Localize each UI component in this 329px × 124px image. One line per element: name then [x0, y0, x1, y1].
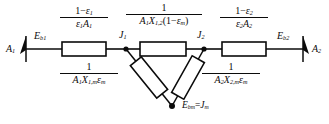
resistor-box-surface-2	[222, 42, 266, 56]
label-J1: J1	[119, 30, 127, 41]
numerator-medium-2: 1	[202, 62, 260, 73]
label-Ebm-sub: bm	[188, 104, 195, 110]
num-one-r12: 1	[162, 2, 167, 13]
resistance-label-surface-1: 1−ε1 ε1A1	[60, 6, 108, 30]
label-A1-sub: 1	[12, 47, 15, 54]
num-eps-sub-r1: 1	[90, 9, 93, 16]
label-A1: A1	[6, 44, 15, 55]
label-Eb1-sub: b1	[40, 34, 46, 41]
numerator-space-1-2: 1	[126, 3, 202, 14]
num-one-rm2: 1	[229, 61, 234, 72]
resistance-label-surface-2: 1−ε2 ε2A2	[220, 6, 268, 30]
label-Eb2-sub: b2	[283, 34, 289, 41]
denominator-surface-2: ε2A2	[220, 17, 268, 30]
resistor-box-medium-2	[172, 56, 205, 99]
denominator-space-1-2: A1X1,2(1−εm)	[126, 14, 202, 27]
num-eps-sub-r2: 2	[250, 9, 253, 16]
den-eps-sub-rm2: m	[243, 78, 247, 85]
junction-dot-J1	[123, 46, 128, 51]
denominator-medium-1: A1X1,mεm	[60, 73, 118, 86]
label-J2: J2	[197, 30, 205, 41]
den-eps-sub-rm1: m	[101, 78, 105, 85]
label-Jm-sub: m	[205, 104, 209, 110]
resistor-box-medium-1	[130, 57, 167, 98]
num-one-rm1: 1	[87, 61, 92, 72]
den-view-sub-rm2: 2,m	[230, 78, 239, 85]
den-area-sub-r1: 1	[89, 22, 92, 29]
numerator-surface-2: 1−ε2	[220, 6, 268, 17]
numerator-medium-1: 1	[60, 62, 118, 73]
resistance-label-medium-1: 1 A1X1,mεm	[60, 62, 118, 85]
label-A2-sub: 2	[318, 47, 321, 54]
den-view-sub-rm1: 1,m	[88, 78, 97, 85]
radiation-network-diagram: A1 Eb1 J1 J2 Eb2 A2 Ebm=Jm 1−ε1 ε1A1 1	[0, 0, 329, 124]
resistor-box-surface-1	[62, 42, 106, 56]
junction-dot-J2	[201, 46, 206, 51]
resistor-box-space-1-2	[140, 42, 186, 56]
label-medium-node: Ebm=Jm	[182, 101, 209, 111]
label-J1-sub: 1	[123, 33, 126, 40]
denominator-medium-2: A2X2,mεm	[202, 73, 260, 86]
label-A2: A2	[312, 44, 321, 55]
denominator-surface-1: ε1A1	[60, 17, 108, 30]
den-close-r12: )	[185, 15, 188, 26]
terminal-arrow-left	[20, 36, 26, 54]
den-view-sub-r12: 1,2	[155, 19, 163, 26]
label-J2-sub: 2	[201, 33, 204, 40]
den-area-sub-r2: 2	[249, 22, 252, 29]
resistance-label-medium-2: 1 A2X2,mεm	[202, 62, 260, 85]
label-Eb2: Eb2	[277, 31, 289, 42]
resistance-label-space-1-2: 1 A1X1,2(1−εm)	[126, 3, 202, 26]
numerator-surface-1: 1−ε1	[60, 6, 108, 17]
label-Eb1: Eb1	[34, 31, 46, 42]
junction-dot-medium	[169, 103, 175, 109]
terminal-arrow-right	[303, 36, 309, 54]
